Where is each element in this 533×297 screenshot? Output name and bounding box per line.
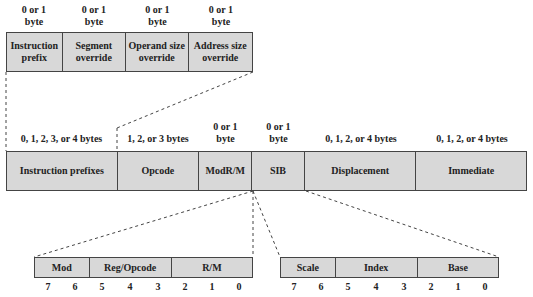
sib-bit-number: 4 [366,281,386,292]
instruction-field: Instruction prefixes [7,152,118,190]
instruction-size-label: 0 or 1 byte [199,121,252,145]
instruction-field: Displacement [305,152,417,190]
prefix-size-label: 0 or 1 byte [6,4,62,28]
instruction-size-label: 0, 1, 2, or 4 bytes [417,133,527,145]
prefix-field: Operand size override [126,33,188,71]
instruction-field: Opcode [118,152,200,190]
modrm-bit-number: 5 [92,281,112,292]
modrm-bit-number: 1 [202,281,222,292]
instruction-size-label: 0 or 1 byte [252,121,305,145]
prefix-size-label: 0 or 1 byte [126,4,189,28]
modrm-bit-number: 0 [229,281,249,292]
sib-bit-number: 5 [338,281,358,292]
sib-field: Scale [281,258,336,277]
modrm-field: R/M [172,258,252,277]
modrm-bit-number: 6 [65,281,85,292]
prefix-field: Segment override [63,33,126,71]
prefix-field: Instruction prefix [7,33,63,71]
instruction-size-label: 0, 1, 2, 3, or 4 bytes [6,133,117,145]
prefix-size-label: 0 or 1 byte [62,4,126,28]
sib-bit-number: 7 [284,281,304,292]
prefix-detail-row: Instruction prefixSegment overrideOperan… [6,32,253,72]
modrm-field: Reg/Opcode [90,258,172,277]
modrm-field: Mod [35,258,90,277]
modrm-bit-number: 2 [175,281,195,292]
sib-field: Base [418,258,498,277]
instruction-field: Immediate [416,152,526,190]
sib-bit-number: 3 [394,281,414,292]
instruction-size-label: 0, 1, 2, or 4 bytes [305,133,417,145]
instruction-field: SIB [252,152,305,190]
sib-bit-number: 6 [311,281,331,292]
sib-bit-number: 1 [448,281,468,292]
modrm-bit-number: 3 [148,281,168,292]
modrm-row: ModReg/OpcodeR/M [34,257,253,278]
sib-field: Index [336,258,418,277]
modrm-bit-number: 4 [120,281,140,292]
prefix-field: Address size override [189,33,252,71]
instruction-size-label: 1, 2, or 3 bytes [117,133,199,145]
sib-bit-number: 0 [475,281,495,292]
sib-bit-number: 2 [421,281,441,292]
instruction-format-row: Instruction prefixesOpcodeModR/MSIBDispl… [6,151,527,191]
prefix-size-label: 0 or 1 byte [189,4,253,28]
sib-row: ScaleIndexBase [280,257,499,278]
instruction-field: ModR/M [199,152,252,190]
modrm-bit-number: 7 [38,281,58,292]
